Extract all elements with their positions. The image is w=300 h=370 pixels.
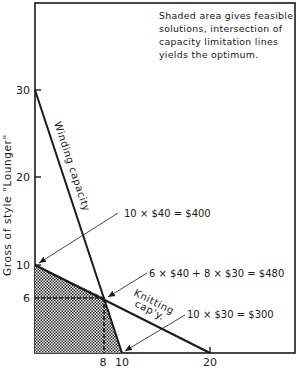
annotation-400: 10 × $40 = $400 <box>124 208 211 219</box>
winding-capacity-label: Winding capacity <box>52 120 92 213</box>
x-tick-10: 10 <box>115 356 129 369</box>
y-tick-10: 10 <box>16 259 30 272</box>
svg-text:solutions, intersection of: solutions, intersection of <box>159 23 283 34</box>
x-tick-8: 8 <box>100 356 107 369</box>
y-axis-label: Gross of style "Lounger" <box>1 134 13 276</box>
svg-text:yields the optimum.: yields the optimum. <box>159 49 259 60</box>
feasible-region <box>35 265 122 353</box>
svg-text:capacity limitation lines: capacity limitation lines <box>159 36 278 47</box>
annotation-480: 6 × $40 + 8 × $30 = $480 <box>149 268 284 279</box>
chart: 30 20 10 6 8 10 20 Gross of style "Loung… <box>0 0 300 370</box>
note-text: Shaded area gives feasible solutions, in… <box>159 10 293 60</box>
y-tick-30: 30 <box>16 84 30 97</box>
svg-text:Shaded area gives feasible: Shaded area gives feasible <box>159 10 293 21</box>
arrow-300 <box>125 315 185 351</box>
annotation-300: 10 × $30 = $300 <box>187 309 274 320</box>
y-tick-6: 6 <box>23 292 30 305</box>
x-tick-20: 20 <box>203 356 217 369</box>
y-tick-20: 20 <box>16 171 30 184</box>
